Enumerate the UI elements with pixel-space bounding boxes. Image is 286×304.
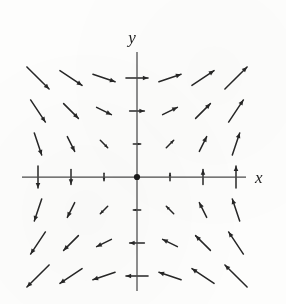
x-axis-label: x xyxy=(254,168,263,187)
field-arrow xyxy=(31,100,46,122)
field-arrow xyxy=(199,137,206,152)
arrow-head xyxy=(234,166,239,171)
field-arrow xyxy=(34,199,42,221)
field-arrow xyxy=(60,71,82,86)
arrow-head xyxy=(126,274,131,279)
vector-field-canvas: x y xyxy=(0,0,286,304)
arrow-head xyxy=(169,173,172,176)
arrow-head xyxy=(175,74,181,78)
field-arrow xyxy=(93,272,115,280)
arrow-head xyxy=(93,276,99,280)
field-arrow xyxy=(159,272,181,280)
field-arrow xyxy=(64,104,79,119)
arrow-head xyxy=(36,183,41,188)
field-arrow xyxy=(27,67,49,89)
field-arrow xyxy=(229,232,244,254)
arrow-head xyxy=(103,178,106,181)
arrow-head xyxy=(133,209,136,212)
origin-dot xyxy=(134,174,140,180)
field-arrow xyxy=(67,137,74,152)
field-arrow xyxy=(100,140,107,147)
arrow-head xyxy=(236,133,240,139)
field-arrow xyxy=(232,199,240,221)
field-arrow xyxy=(225,67,247,89)
arrow-head xyxy=(232,199,236,205)
y-axis-label: y xyxy=(126,28,136,47)
field-arrow xyxy=(34,133,42,155)
field-arrow xyxy=(163,107,178,114)
field-arrow xyxy=(196,236,211,251)
field-arrow xyxy=(192,269,214,284)
field-arrow xyxy=(192,71,214,86)
axes-layer xyxy=(22,52,246,291)
arrow-head xyxy=(138,143,141,146)
field-arrow xyxy=(229,100,244,122)
arrow-head xyxy=(143,76,148,81)
field-arrow xyxy=(67,203,74,218)
arrow-head xyxy=(130,241,135,246)
arrow-head xyxy=(201,170,206,175)
field-arrow xyxy=(100,206,107,213)
arrow-head xyxy=(139,109,144,114)
field-arrow xyxy=(31,232,46,254)
field-arrow xyxy=(232,133,240,155)
field-arrow xyxy=(97,239,112,246)
field-arrow xyxy=(64,236,79,251)
field-arrow xyxy=(97,107,112,114)
field-arrow xyxy=(93,74,115,82)
field-arrow xyxy=(166,206,173,213)
arrow-head xyxy=(69,179,74,184)
arrow-head xyxy=(38,149,42,155)
arrow-head xyxy=(34,215,38,221)
arrow-head xyxy=(159,272,165,276)
field-arrow xyxy=(196,104,211,119)
field-arrow xyxy=(60,269,82,284)
field-arrow xyxy=(27,265,49,287)
field-arrow xyxy=(166,140,173,147)
field-arrow xyxy=(163,239,178,246)
vector-field-figure: x y xyxy=(0,0,286,304)
field-arrow xyxy=(225,265,247,287)
field-arrow xyxy=(159,74,181,82)
field-arrow xyxy=(199,203,206,218)
arrow-head xyxy=(109,78,115,82)
